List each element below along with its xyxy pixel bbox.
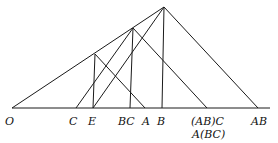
diagram-canvas: O C E BC A B (AB)C A(BC) AB [0,0,278,143]
line-p3-to-a [95,54,145,108]
label-e: E [87,115,96,128]
line-apex-to-b [162,7,164,108]
line-p2-to-abc [133,28,207,108]
label-a: A [141,115,150,128]
line-p2-to-bc [130,28,133,108]
construction-svg: O C E BC A B (AB)C A(BC) AB [0,0,278,143]
label-b: B [156,115,165,128]
line-p2-to-c [76,28,133,108]
label-c: C [69,115,78,128]
label-ab-c: (AB)C [191,115,225,128]
ray-o-to-apex [12,7,164,108]
line-apex-to-ab [164,7,258,108]
line-apex-to-e [93,7,164,108]
label-a-bc: A(BC) [191,128,225,141]
label-bc: BC [117,115,135,128]
label-ab: AB [250,115,267,128]
label-o: O [5,115,14,128]
